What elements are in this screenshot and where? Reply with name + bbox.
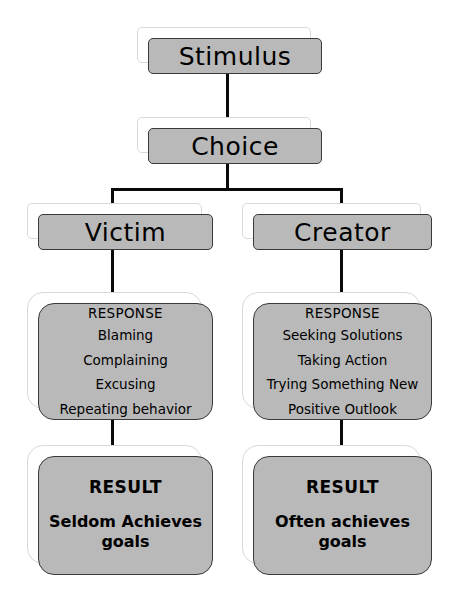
node-creator[interactable]: Creator [253, 214, 432, 250]
victim-response-item: Repeating behavior [60, 403, 192, 417]
node-victim-result-box: RESULT Seldom Achieves goals [38, 456, 213, 575]
victim-result-heading: RESULT [89, 479, 162, 496]
node-victim[interactable]: Victim [38, 214, 213, 250]
creator-response-item: Seeking Solutions [282, 329, 402, 343]
node-creator-result[interactable]: RESULT Often achieves goals [253, 456, 432, 575]
node-victim-response[interactable]: RESPONSE Blaming Complaining Excusing Re… [38, 303, 213, 420]
node-creator-box: Creator [253, 214, 432, 250]
flowchart-canvas: Stimulus Choice Victim Creator RESPONSE … [0, 0, 454, 596]
node-victim-response-box: RESPONSE Blaming Complaining Excusing Re… [38, 303, 213, 420]
node-creator-label: Creator [294, 220, 391, 245]
victim-response-heading: RESPONSE [88, 307, 163, 321]
node-stimulus[interactable]: Stimulus [148, 38, 322, 74]
creator-result-heading: RESULT [306, 479, 379, 496]
node-victim-box: Victim [38, 214, 213, 250]
connector-choice-down [226, 164, 229, 190]
creator-result-body: Often achieves goals [254, 512, 431, 552]
victim-response-item: Complaining [83, 354, 168, 368]
node-stimulus-box: Stimulus [148, 38, 322, 74]
top-clipped-text [0, 0, 454, 7]
creator-response-item: Taking Action [298, 354, 388, 368]
node-victim-label: Victim [85, 220, 166, 245]
victim-response-item: Blaming [98, 329, 153, 343]
node-creator-result-box: RESULT Often achieves goals [253, 456, 432, 575]
node-creator-response[interactable]: RESPONSE Seeking Solutions Taking Action… [253, 303, 432, 420]
victim-result-body: Seldom Achieves goals [39, 512, 212, 552]
node-creator-response-box: RESPONSE Seeking Solutions Taking Action… [253, 303, 432, 420]
creator-response-item: Positive Outlook [288, 403, 397, 417]
creator-response-item: Trying Something New [267, 378, 419, 392]
victim-response-item: Excusing [95, 378, 155, 392]
node-stimulus-label: Stimulus [179, 44, 292, 69]
connector-split-bar [111, 188, 343, 191]
node-victim-result[interactable]: RESULT Seldom Achieves goals [38, 456, 213, 575]
node-choice-box: Choice [148, 128, 322, 164]
node-choice[interactable]: Choice [148, 128, 322, 164]
creator-response-heading: RESPONSE [305, 307, 380, 321]
node-choice-label: Choice [191, 134, 279, 159]
